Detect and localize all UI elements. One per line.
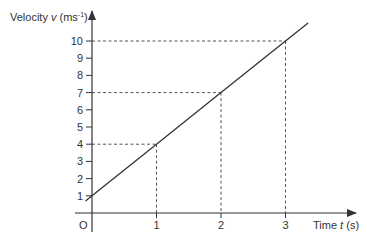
y-tick-label: 4 xyxy=(77,138,83,150)
y-tick-label: 7 xyxy=(77,87,83,99)
y-tick-label: 2 xyxy=(77,173,83,185)
y-axis-label: Velocity v (ms-1) xyxy=(10,11,88,23)
x-tick-label: 2 xyxy=(218,219,224,231)
origin-label: O xyxy=(79,219,88,231)
x-tick-label: 1 xyxy=(153,219,159,231)
y-axis-ticks: 12345678910 xyxy=(71,35,92,202)
dashed-guide-lines xyxy=(92,41,286,213)
y-tick-label: 3 xyxy=(77,155,83,167)
x-tick-label: 3 xyxy=(282,219,288,231)
chart-canvas: 123 12345678910 O Velocity v (ms-1) Time… xyxy=(0,0,367,238)
y-tick-label: 6 xyxy=(77,104,83,116)
velocity-time-graph: 123 12345678910 O Velocity v (ms-1) Time… xyxy=(0,0,367,238)
velocity-line xyxy=(86,23,309,201)
y-tick-label: 1 xyxy=(77,190,83,202)
x-axis-label: Time t (s) xyxy=(313,219,359,231)
x-axis-ticks: 123 xyxy=(153,213,288,231)
y-tick-label: 9 xyxy=(77,52,83,64)
y-tick-label: 10 xyxy=(71,35,83,47)
y-tick-label: 5 xyxy=(77,121,83,133)
y-tick-label: 8 xyxy=(77,69,83,81)
